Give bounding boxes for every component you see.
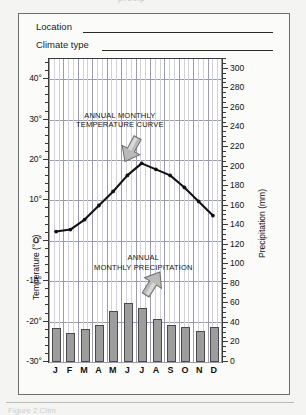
left-tick-minor [45, 102, 48, 103]
left-tick-minor [45, 272, 48, 273]
precipitation-callout-arrow-icon [138, 268, 168, 298]
left-tick-minor [45, 111, 48, 112]
left-tick-minor [45, 167, 48, 168]
right-tick-minor [223, 307, 226, 308]
right-tick-minor [223, 239, 226, 240]
temperature-data-point [154, 167, 158, 171]
right-axis-tick-label: 60 [230, 297, 239, 307]
right-tick-minor [223, 332, 226, 333]
left-axis-tick-label: -30° [16, 356, 42, 366]
right-axis-tick-label: 300 [230, 63, 244, 73]
gridline-h [49, 362, 222, 363]
right-axis-tick-label: 260 [230, 102, 244, 112]
right-tick-minor [223, 161, 226, 162]
left-tick-minor [45, 191, 48, 192]
temperature-callout: ANNUAL MONTHLY TEMPERATURE CURVE [76, 111, 164, 130]
right-tick-minor [223, 131, 226, 132]
right-axis-title: Precipitation (mm) [257, 189, 267, 258]
right-tick-minor [223, 92, 226, 93]
right-tick-minor [223, 175, 226, 176]
right-tick-minor [223, 258, 226, 259]
arrow-body [116, 135, 146, 166]
right-tick-minor [223, 337, 226, 338]
left-tick-minor [45, 345, 48, 346]
left-tick-minor [45, 224, 48, 225]
right-tick-major [223, 87, 228, 88]
right-tick-minor [223, 112, 226, 113]
right-tick-minor [223, 210, 226, 211]
right-tick-minor [223, 122, 226, 123]
right-tick-minor [223, 190, 226, 191]
left-axis-tick-label: 30° [16, 114, 42, 124]
left-tick-minor [45, 175, 48, 176]
right-tick-minor [223, 253, 226, 254]
right-tick-minor [223, 63, 226, 64]
right-tick-major [223, 322, 228, 323]
temperature-data-point [211, 214, 215, 218]
location-write-in-line[interactable] [83, 32, 273, 33]
temperature-callout-line1: ANNUAL MONTHLY [76, 111, 164, 121]
left-tick-minor [45, 183, 48, 184]
left-tick-minor [45, 216, 48, 217]
left-tick-minor [45, 296, 48, 297]
precipitation-callout-line1: ANNUAL [94, 253, 193, 263]
month-label: J [120, 365, 134, 375]
right-tick-minor [223, 288, 226, 289]
left-tick-minor [45, 313, 48, 314]
month-label: F [62, 365, 76, 375]
left-tick-minor [45, 207, 48, 208]
right-tick-minor [223, 327, 226, 328]
left-axis-tick-label: 10° [16, 194, 42, 204]
right-tick-minor [223, 136, 226, 137]
left-axis-tick-label: 40° [16, 73, 42, 83]
left-tick-minor [45, 127, 48, 128]
right-tick-major [223, 146, 228, 147]
right-tick-minor [223, 170, 226, 171]
right-tick-minor [223, 346, 226, 347]
left-axis-tick-label: 0° [16, 235, 42, 245]
month-label: M [77, 365, 91, 375]
right-axis-tick-label: 120 [230, 239, 244, 249]
left-tick-minor [45, 70, 48, 71]
right-tick-minor [223, 102, 226, 103]
right-axis-tick-label: 180 [230, 180, 244, 190]
temperature-data-point [197, 200, 201, 204]
right-tick-major [223, 68, 228, 69]
left-tick-major [43, 280, 48, 281]
left-axis-tick-label: -20° [16, 316, 42, 326]
left-tick-major [43, 159, 48, 160]
left-tick-minor [45, 248, 48, 249]
temperature-data-point [69, 228, 73, 232]
right-tick-minor [223, 234, 226, 235]
top-cropped-text: precip [0, 0, 306, 12]
right-tick-minor [223, 268, 226, 269]
right-axis-tick-label: 240 [230, 121, 244, 131]
right-axis-tick-label: 40 [230, 317, 239, 327]
right-tick-minor [223, 273, 226, 274]
right-tick-minor [223, 156, 226, 157]
temperature-data-point [97, 204, 101, 208]
left-tick-major [43, 199, 48, 200]
right-tick-major [223, 263, 228, 264]
right-tick-minor [223, 293, 226, 294]
right-tick-minor [223, 117, 226, 118]
right-tick-major [223, 224, 228, 225]
left-tick-minor [45, 151, 48, 152]
climate-type-write-in-line[interactable] [102, 50, 273, 51]
temperature-line [56, 163, 213, 231]
right-tick-minor [223, 78, 226, 79]
temperature-callout-line2: TEMPERATURE CURVE [76, 120, 164, 130]
right-tick-minor [223, 141, 226, 142]
left-axis-tick-label: -10° [16, 275, 42, 285]
month-label: M [106, 365, 120, 375]
month-label: A [149, 365, 163, 375]
right-tick-minor [223, 97, 226, 98]
right-tick-minor [223, 200, 226, 201]
temperature-curve [49, 59, 222, 362]
left-tick-minor [45, 264, 48, 265]
temperature-data-point [168, 174, 172, 178]
temperature-callout-arrow-icon [116, 135, 146, 167]
left-tick-major [43, 119, 48, 120]
right-tick-major [223, 166, 228, 167]
right-tick-minor [223, 249, 226, 250]
